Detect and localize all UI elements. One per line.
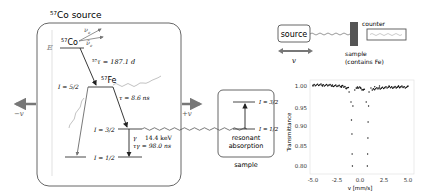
absorber-line1: resonant (232, 134, 261, 142)
motion-arrows: −v +v (14, 104, 200, 118)
level-32-label: I = 3/2 (93, 126, 115, 133)
minus-v-label: −v (14, 110, 24, 118)
transition-52-12 (77, 87, 88, 155)
source-title: 57Co source (50, 10, 102, 20)
level-52-label: I = 5/2 (57, 83, 79, 90)
plus-v-label: +v (182, 110, 192, 118)
gamma-label: γ (133, 134, 137, 142)
setup-counter-label: counter (362, 20, 386, 27)
velocity-arrow-left-head (278, 48, 283, 54)
fe-label: 57Fe (101, 75, 117, 85)
absorber-level-12-label: I = 1/2 (258, 126, 279, 132)
x-ticks: -5.0 -2.5 0.0 2.5 5.0 (308, 177, 413, 183)
gamma-wave-upper (113, 76, 161, 87)
absorber-level-32-label: I = 3/2 (258, 99, 279, 105)
svg-text:5.0: 5.0 (404, 177, 413, 183)
svg-text:0.0: 0.0 (356, 177, 365, 183)
halflife-label: 57τ = 187.1 d (92, 58, 135, 67)
absorber-caption: sample (234, 161, 258, 169)
counter-wave (370, 34, 402, 36)
co-label: 57Co (61, 37, 78, 47)
antineutrino-label: ν̄e (86, 39, 93, 48)
data-points (312, 83, 408, 166)
gamma-wave-to-sample (142, 128, 247, 131)
svg-text:0.90: 0.90 (295, 123, 308, 129)
tau-52-label: τ = 8.6 ns (119, 94, 150, 101)
decay-arrow (80, 48, 96, 85)
gamma-tau-label: τγ = 98.0 ns (133, 142, 171, 150)
svg-text:0.80: 0.80 (295, 163, 308, 169)
y-ticks: 1.00 0.95 0.90 0.85 0.80 (295, 83, 308, 169)
source-box-frame (37, 23, 181, 186)
y-axis-label: Transmittance (286, 112, 292, 153)
source-box: 57Co source E 57Co νe ν̄e 57τ = 187.1 d … (37, 10, 181, 186)
mossbauer-diagram: 57Co source E 57Co νe ν̄e 57τ = 187.1 d … (0, 0, 425, 196)
energy-axis-label: E (46, 43, 53, 52)
velocity-arrow-right-head (308, 48, 313, 54)
svg-text:1.00: 1.00 (295, 83, 308, 89)
setup-sample-label-1: sample (345, 50, 367, 58)
transition-52-32 (113, 87, 127, 127)
setup-sample-slab (350, 22, 358, 46)
x-axis-label: v [mm/s] (348, 185, 373, 191)
setup-schematic: source counter v sample (contains Fe) (278, 20, 406, 65)
svg-text:0.95: 0.95 (295, 105, 308, 111)
neutrino-label: νe (84, 26, 91, 35)
setup-sample-label-2: (contains Fe) (345, 58, 384, 65)
level-12-label: I = 1/2 (93, 154, 115, 161)
svg-text:-2.5: -2.5 (332, 177, 343, 183)
svg-text:-5.0: -5.0 (308, 177, 319, 183)
chart-frame (310, 80, 414, 174)
setup-counter-box (367, 29, 406, 40)
gamma-energy-label: 14.4 keV (145, 134, 172, 141)
svg-text:2.5: 2.5 (380, 177, 389, 183)
absorber-line2: absorption (229, 142, 264, 150)
setup-velocity-label: v (292, 57, 296, 65)
svg-text:0.85: 0.85 (295, 143, 308, 149)
spectrum-chart: 1.00 0.95 0.90 0.85 0.80 Transmittance -… (286, 80, 414, 191)
setup-source-label: source (281, 30, 308, 39)
